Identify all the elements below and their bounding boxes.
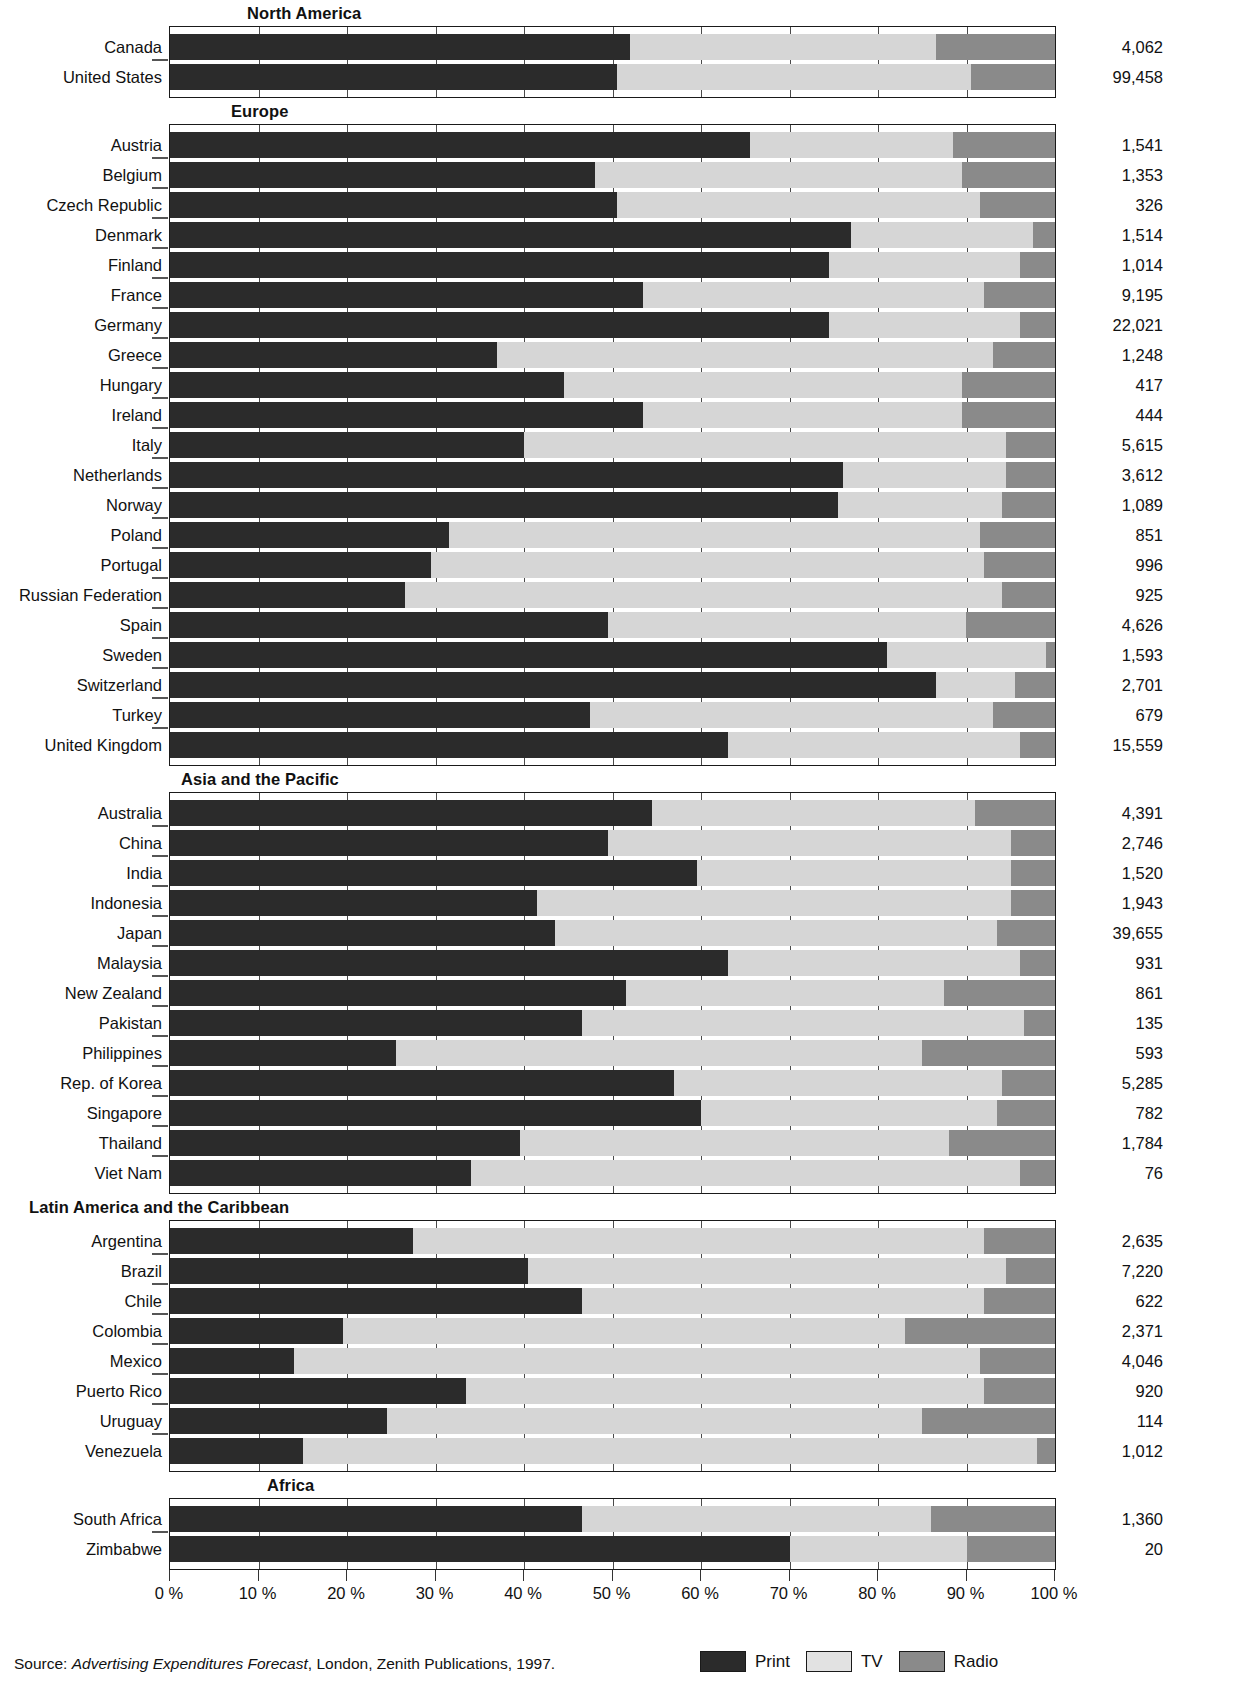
row-label: Russian Federation bbox=[19, 582, 162, 608]
bar-segment-print bbox=[170, 890, 537, 916]
chart-footer: Source: Advertising Expenditures Forecas… bbox=[0, 1651, 1244, 1685]
row-label: Sweden bbox=[102, 642, 162, 668]
axis-tick-label: 50 % bbox=[593, 1584, 631, 1603]
row-label: South Africa bbox=[73, 1506, 162, 1532]
bar-segment-radio bbox=[980, 522, 1055, 548]
stacked-bar bbox=[170, 950, 1055, 976]
row-value: 22,021 bbox=[1067, 312, 1163, 338]
row-label: Finland bbox=[108, 252, 162, 278]
axis-tick bbox=[435, 1570, 436, 1581]
bar-segment-tv bbox=[528, 1258, 1006, 1284]
bar-segment-radio bbox=[993, 342, 1055, 368]
bar-segment-radio bbox=[984, 552, 1055, 578]
row-tick bbox=[152, 1313, 168, 1315]
row-value: 4,626 bbox=[1067, 612, 1163, 638]
bar-segment-tv bbox=[674, 1070, 1001, 1096]
stacked-bar bbox=[170, 192, 1055, 218]
bar-segment-tv bbox=[701, 1100, 997, 1126]
stacked-bar bbox=[170, 1040, 1055, 1066]
chart-row: Hungary417 bbox=[170, 372, 1055, 398]
row-value: 39,655 bbox=[1067, 920, 1163, 946]
bar-segment-print bbox=[170, 1100, 701, 1126]
row-tick bbox=[152, 59, 168, 61]
bar-segment-tv bbox=[608, 612, 966, 638]
stacked-bar bbox=[170, 552, 1055, 578]
stacked-bar bbox=[170, 402, 1055, 428]
bar-segment-tv bbox=[497, 342, 993, 368]
axis-tick bbox=[523, 1570, 524, 1581]
row-label: Rep. of Korea bbox=[60, 1070, 162, 1096]
panel-inner: South Africa1,360Zimbabwe20 bbox=[170, 1499, 1055, 1569]
row-label: Singapore bbox=[87, 1100, 162, 1126]
chart-row: Italy5,615 bbox=[170, 432, 1055, 458]
stacked-bar bbox=[170, 1160, 1055, 1186]
bar-segment-radio bbox=[1002, 492, 1055, 518]
bar-segment-print bbox=[170, 432, 524, 458]
row-value: 9,195 bbox=[1067, 282, 1163, 308]
row-value: 5,285 bbox=[1067, 1070, 1163, 1096]
stacked-bar bbox=[170, 642, 1055, 668]
stacked-bar bbox=[170, 462, 1055, 488]
bar-segment-tv bbox=[520, 1130, 949, 1156]
bar-segment-radio bbox=[1020, 1160, 1055, 1186]
bar-segment-radio bbox=[1033, 222, 1055, 248]
bar-segment-print bbox=[170, 132, 750, 158]
chart-row: Poland851 bbox=[170, 522, 1055, 548]
bar-segment-print bbox=[170, 830, 608, 856]
chart-row: South Africa1,360 bbox=[170, 1506, 1055, 1532]
row-value: 3,612 bbox=[1067, 462, 1163, 488]
bar-segment-radio bbox=[984, 1288, 1055, 1314]
bar-segment-print bbox=[170, 1130, 520, 1156]
chart-row: Rep. of Korea5,285 bbox=[170, 1070, 1055, 1096]
row-value: 1,089 bbox=[1067, 492, 1163, 518]
row-value: 76 bbox=[1067, 1160, 1163, 1186]
axis-tick-label: 90 % bbox=[947, 1584, 985, 1603]
row-tick bbox=[152, 157, 168, 159]
chart-row: Thailand1,784 bbox=[170, 1130, 1055, 1156]
stacked-bar bbox=[170, 1318, 1055, 1344]
row-tick bbox=[152, 217, 168, 219]
bar-segment-tv bbox=[697, 860, 1011, 886]
bar-segment-print bbox=[170, 64, 617, 90]
bar-segment-radio bbox=[1006, 432, 1055, 458]
row-tick bbox=[152, 1531, 168, 1533]
legend-swatch-tv-icon bbox=[806, 1651, 852, 1672]
axis-tick-label: 70 % bbox=[770, 1584, 808, 1603]
group-panel: Canada4,062United States99,458 bbox=[169, 26, 1056, 98]
chart-row: Sweden1,593 bbox=[170, 642, 1055, 668]
chart-legend: PrintTVRadio bbox=[700, 1651, 998, 1672]
row-label: Argentina bbox=[91, 1228, 162, 1254]
bar-segment-print bbox=[170, 950, 728, 976]
bar-segment-print bbox=[170, 1288, 582, 1314]
bar-segment-tv bbox=[595, 162, 962, 188]
bar-segment-print bbox=[170, 1160, 471, 1186]
group-panel: Argentina2,635Brazil7,220Chile622Colombi… bbox=[169, 1220, 1056, 1472]
bar-segment-radio bbox=[1024, 1010, 1055, 1036]
bar-segment-radio bbox=[1002, 1070, 1055, 1096]
bar-segment-radio bbox=[1020, 312, 1055, 338]
row-label: Zimbabwe bbox=[86, 1536, 162, 1562]
bar-segment-radio bbox=[944, 980, 1055, 1006]
row-tick bbox=[152, 397, 168, 399]
row-value: 1,360 bbox=[1067, 1506, 1163, 1532]
row-tick bbox=[152, 187, 168, 189]
stacked-bar bbox=[170, 1070, 1055, 1096]
row-value: 679 bbox=[1067, 702, 1163, 728]
stacked-bar bbox=[170, 1506, 1055, 1532]
bar-segment-tv bbox=[564, 372, 962, 398]
bar-segment-print bbox=[170, 34, 630, 60]
row-label: Puerto Rico bbox=[76, 1378, 162, 1404]
bar-segment-radio bbox=[1006, 1258, 1055, 1284]
row-value: 861 bbox=[1067, 980, 1163, 1006]
row-tick bbox=[152, 367, 168, 369]
row-tick bbox=[152, 1005, 168, 1007]
stacked-bar bbox=[170, 1378, 1055, 1404]
chart-row: Switzerland2,701 bbox=[170, 672, 1055, 698]
row-tick bbox=[152, 547, 168, 549]
row-value: 925 bbox=[1067, 582, 1163, 608]
stacked-bar bbox=[170, 312, 1055, 338]
bar-segment-print bbox=[170, 1228, 413, 1254]
stacked-bar bbox=[170, 980, 1055, 1006]
chart-row: Canada4,062 bbox=[170, 34, 1055, 60]
stacked-bar bbox=[170, 132, 1055, 158]
